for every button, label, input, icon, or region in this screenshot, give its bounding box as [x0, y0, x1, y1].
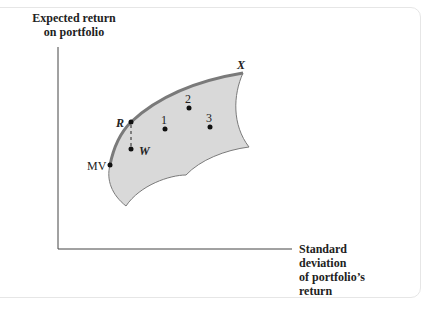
y-axis-label: Expected return on portfolio	[14, 11, 134, 39]
point-3	[208, 125, 213, 130]
label-x: X	[237, 59, 245, 71]
label-2: 2	[185, 93, 191, 105]
point-mv	[108, 163, 113, 168]
x-axis-label-line: Standard	[299, 242, 365, 256]
x-axis-label-line: deviation	[299, 256, 365, 270]
y-axis-label-line: Expected return	[14, 11, 134, 25]
feasible-region	[109, 73, 249, 206]
label-w: W	[139, 145, 150, 157]
x-axis-label-line: of portfolio’s	[299, 270, 365, 284]
label-3: 3	[206, 112, 212, 124]
y-axis-label-line: on portfolio	[14, 25, 134, 39]
point-r	[129, 120, 134, 125]
label-mv: MV	[87, 160, 106, 172]
label-r: R	[116, 117, 124, 129]
point-1	[163, 127, 168, 132]
point-w	[129, 147, 134, 152]
x-axis-label: Standard deviation of portfolio’s return	[299, 242, 365, 298]
label-1: 1	[161, 114, 167, 126]
frontier-diagram	[0, 0, 442, 309]
x-axis-label-line: return	[299, 284, 365, 298]
point-2	[187, 106, 192, 111]
